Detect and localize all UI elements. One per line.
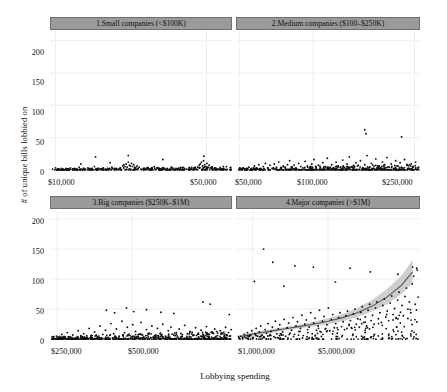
facet-strip-2: 2.Medium companies ($100–$250K) (236, 17, 420, 30)
panel-plot-area-2 (236, 31, 420, 175)
y-tick-bottom-50: 50 (18, 307, 44, 316)
y-tick-top-50: 50 (18, 138, 44, 147)
y-tick-top-100: 100 (18, 108, 44, 117)
x-tick-p4-5000000: $5,000,000 (318, 347, 355, 356)
panel-plot-area-4 (236, 210, 420, 344)
y-tick-bottom-150: 150 (18, 247, 44, 256)
y-tick-bottom-0: 0 (18, 337, 44, 346)
x-tick-p1-10000: $10,000 (48, 178, 75, 187)
x-tick-p2-100000: $100,000 (297, 178, 328, 187)
x-tick-p4-1000000: $1,000,000 (238, 347, 275, 356)
x-tick-p3-250000: $250,000 (51, 347, 82, 356)
y-tick-top-0: 0 (18, 168, 44, 177)
scatter-panel-small-companies (50, 31, 232, 175)
x-axis-title: Lobbying spending (50, 371, 420, 381)
y-tick-top-200: 200 (18, 48, 44, 57)
y-tick-bottom-100: 100 (18, 277, 44, 286)
y-tick-bottom-200: 200 (18, 217, 44, 226)
facet-strip-4: 4.Major companies (>$1M) (236, 196, 420, 209)
y-tick-top-150: 150 (18, 78, 44, 87)
facet-strip-1: 1.Small companies (<$100K) (50, 17, 232, 30)
panel-plot-area-1 (50, 31, 232, 175)
chart-canvas: # of unique bills lobbied on Lobbying sp… (0, 0, 447, 392)
facet-strip-3: 3.Big companies ($250K–$1M) (50, 196, 232, 209)
scatter-panel-major-companies (236, 210, 420, 344)
x-tick-p1-50000: $50,000 (190, 178, 217, 187)
x-tick-p3-500000: $500,000 (128, 347, 159, 356)
x-tick-p2-250000: $250,000 (382, 178, 413, 187)
scatter-panel-big-companies (50, 210, 232, 344)
scatter-panel-medium-companies (236, 31, 420, 175)
x-tick-p2-50000: $50,000 (235, 178, 262, 187)
panel-plot-area-3 (50, 210, 232, 344)
